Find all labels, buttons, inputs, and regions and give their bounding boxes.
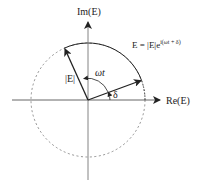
arc-right-segment (142, 81, 145, 101)
delta-arc (109, 93, 111, 101)
phasor-diagram: Im(E) Re(E) |E| ωt δ E = |E|ei(ωt + δ) (0, 0, 202, 184)
im-axis-label: Im(E) (77, 6, 101, 18)
magnitude-label: |E| (65, 73, 75, 84)
omega-t-label: ωt (95, 67, 105, 78)
diagram-canvas: Im(E) Re(E) |E| ωt δ E = |E|ei(ωt + δ) (0, 0, 202, 184)
equation-lhs: E = |E|e (132, 40, 160, 50)
equation-exponent: i(ωt + δ) (160, 39, 181, 46)
delta-label: δ (113, 89, 118, 100)
equation-label: E = |E|ei(ωt + δ) (132, 39, 181, 50)
re-axis-label: Re(E) (166, 95, 190, 107)
